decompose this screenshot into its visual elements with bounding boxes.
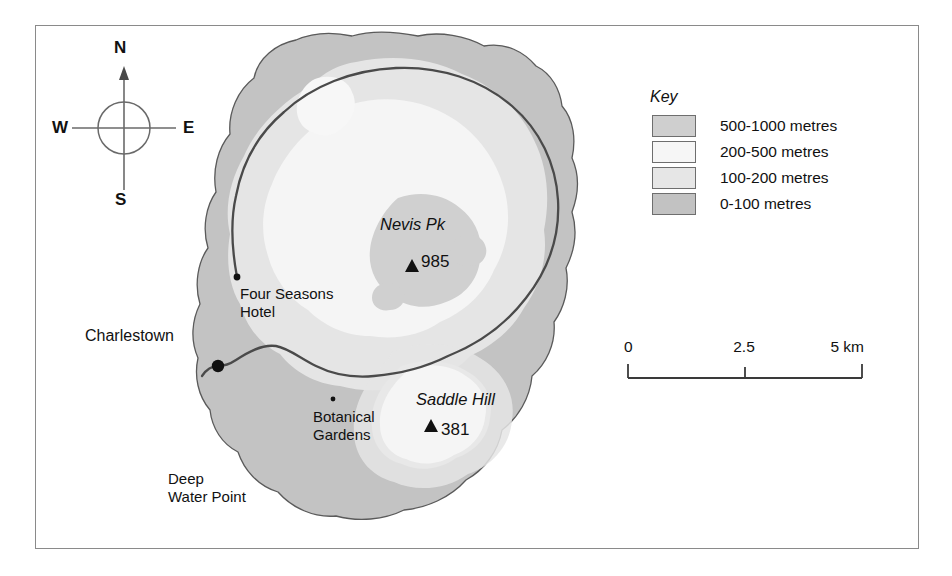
scale-label-end: 5 km [830, 338, 864, 356]
key-row-0-100: 0-100 metres [652, 191, 837, 217]
scale-label-mid: 2.5 [733, 338, 755, 356]
key-label-500-1000: 500-1000 metres [720, 117, 837, 135]
label-saddle-hill-height: 381 [441, 420, 469, 440]
label-nevis-pk-height: 985 [421, 252, 449, 272]
key-swatch-200-500 [652, 141, 696, 163]
key-legend-list: 500-1000 metres 200-500 metres 100-200 m… [652, 113, 837, 217]
map-figure: N S E W Nevis Pk 985 Saddle Hill 381 Cha… [0, 0, 952, 576]
label-nevis-pk: Nevis Pk [380, 215, 445, 234]
scale-bar-labels: 0 2.5 5 km [624, 338, 864, 360]
label-deep-water-point: Deep Water Point [168, 470, 246, 505]
scale-bar-graphic [628, 364, 862, 378]
compass-rose-graphic [72, 66, 176, 190]
north-arrow-head [119, 66, 129, 80]
key-swatch-100-200 [652, 167, 696, 189]
map-canvas [0, 0, 952, 576]
compass-label-east: E [183, 118, 194, 138]
scale-bar: 0 2.5 5 km [624, 338, 864, 360]
scale-label-zero: 0 [624, 338, 633, 356]
key-label-0-100: 0-100 metres [720, 195, 811, 213]
label-four-seasons-hotel: Four Seasons Hotel [240, 285, 333, 320]
key-label-100-200: 100-200 metres [720, 169, 829, 187]
four-seasons-hotel-dot [234, 274, 241, 281]
key-swatch-500-1000 [652, 115, 696, 137]
key-title: Key [650, 88, 678, 106]
key-row-500-1000: 500-1000 metres [652, 113, 837, 139]
compass-label-west: W [52, 118, 68, 138]
charlestown-dot [212, 360, 224, 372]
key-row-100-200: 100-200 metres [652, 165, 837, 191]
botanical-gardens-dot [331, 397, 336, 402]
key-swatch-0-100 [652, 193, 696, 215]
summit-texture-lobe-b [372, 283, 404, 311]
label-saddle-hill: Saddle Hill [416, 390, 495, 409]
compass-label-north: N [114, 38, 126, 58]
label-botanical-gardens: Botanical Gardens [313, 408, 375, 443]
compass-label-south: S [115, 190, 126, 210]
label-charlestown: Charlestown [85, 327, 174, 346]
key-label-200-500: 200-500 metres [720, 143, 829, 161]
key-row-200-500: 200-500 metres [652, 139, 837, 165]
